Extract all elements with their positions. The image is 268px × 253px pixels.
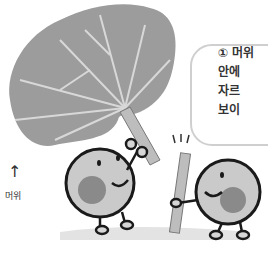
step-number: ① [218,46,228,60]
butterbur-label: 머위 [5,189,21,202]
leaf-stalk-right [169,134,190,233]
speech-bubble-text: ① 머위 안에 자르 보이 [218,44,254,120]
butterbur-leaf [9,4,175,146]
up-arrow-icon: ↑ [8,164,21,180]
character-left [66,139,147,234]
